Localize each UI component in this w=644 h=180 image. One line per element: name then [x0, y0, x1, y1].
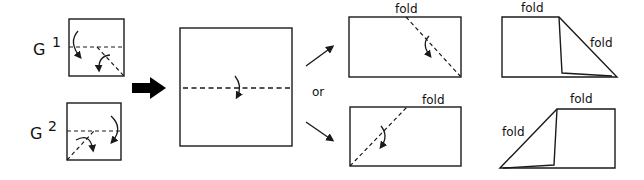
top-rect-step	[349, 17, 461, 77]
or-label: or	[312, 85, 324, 99]
fold-label-result-top-2: fold	[590, 36, 613, 50]
arrow-up-right-icon	[306, 47, 332, 66]
fold-label-result-bottom-1: fold	[570, 92, 593, 106]
fold-label-result-top-1: fold	[521, 1, 544, 15]
g1-square	[69, 19, 124, 76]
fold-label-bottom-rect: fold	[422, 93, 445, 107]
label-g2: G 2	[30, 118, 57, 143]
bottom-rect-step	[350, 107, 461, 166]
g2-square	[67, 103, 121, 160]
big-arrow-icon	[132, 77, 166, 99]
arrow-down-right-icon	[306, 122, 332, 140]
svg-text:2: 2	[48, 118, 57, 134]
fold-label-result-bottom-2: fold	[502, 125, 525, 139]
main-square	[180, 28, 292, 146]
svg-text:G: G	[30, 124, 42, 143]
folding-diagram: G 1 G 2 or fold	[0, 0, 644, 180]
fold-label-top-rect: fold	[395, 2, 418, 16]
label-g1: G 1	[33, 34, 61, 59]
svg-text:1: 1	[52, 34, 61, 50]
svg-text:G: G	[33, 40, 45, 59]
